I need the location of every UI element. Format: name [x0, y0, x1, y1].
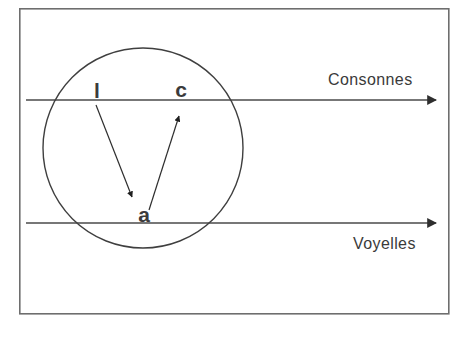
phoneme-label-a: a — [138, 203, 150, 226]
outer-border — [20, 9, 449, 314]
association-arrow-a-to-c — [149, 116, 179, 210]
phoneme-label-l: l — [94, 79, 100, 102]
diagram-canvas: Consonnes Voyelles l c a — [0, 0, 468, 339]
phonology-diagram: Consonnes Voyelles l c a — [0, 0, 468, 339]
voyelles-axis-label: Voyelles — [353, 235, 416, 252]
phoneme-label-c: c — [175, 78, 187, 101]
association-arrow-l-to-a — [96, 105, 132, 197]
consonnes-axis-label: Consonnes — [328, 71, 413, 88]
